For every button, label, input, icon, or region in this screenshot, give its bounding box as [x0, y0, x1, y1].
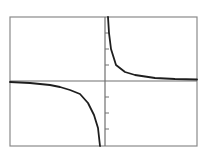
curve-left-branch: [10, 82, 100, 146]
hyperbola-chart: [0, 0, 201, 152]
curve-right-branch: [108, 17, 197, 80]
